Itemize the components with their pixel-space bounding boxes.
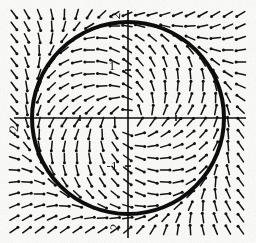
field-arrow-head bbox=[96, 85, 99, 88]
field-arrow-head bbox=[17, 169, 20, 172]
field-arrow-head bbox=[150, 92, 153, 95]
field-arrow-head bbox=[156, 204, 159, 207]
field-arrow-head bbox=[181, 155, 184, 158]
field-arrow-head bbox=[27, 17, 30, 20]
field-arrow-head bbox=[237, 141, 240, 144]
field-arrow-head bbox=[36, 113, 39, 116]
field-arrow-head bbox=[156, 170, 159, 173]
field-arrow-head bbox=[96, 98, 99, 101]
field-arrow-head bbox=[142, 225, 145, 228]
field-arrow-head bbox=[75, 149, 78, 152]
field-arrow-head bbox=[149, 56, 152, 59]
field-arrow-head bbox=[59, 75, 62, 78]
field-arrow-head bbox=[237, 165, 240, 168]
field-arrow-head bbox=[200, 224, 203, 227]
field-arrow-head bbox=[193, 130, 196, 133]
field-arrow-head bbox=[213, 212, 216, 215]
field-arrow-head bbox=[150, 80, 153, 83]
field-arrow-head bbox=[85, 112, 88, 115]
field-arrow-head bbox=[122, 46, 125, 49]
field-arrow-head bbox=[92, 226, 95, 229]
field-arrow-head bbox=[176, 68, 179, 71]
field-arrow-head bbox=[193, 167, 196, 170]
field-arrow-head bbox=[42, 214, 45, 217]
field-arrow-head bbox=[197, 36, 200, 39]
field-arrow-head bbox=[83, 73, 86, 76]
field-arrow-head bbox=[214, 188, 217, 191]
field-arrow-head bbox=[96, 48, 99, 51]
field-arrow-head bbox=[177, 80, 180, 83]
field-arrow-head bbox=[39, 29, 42, 32]
field-arrow-head bbox=[83, 37, 86, 40]
field-arrow-head bbox=[136, 93, 139, 96]
field-arrow-head bbox=[223, 70, 226, 73]
field-arrow-head bbox=[49, 137, 52, 140]
field-arrow-head bbox=[105, 207, 108, 210]
field-arrow-head bbox=[198, 46, 201, 49]
field-arrow-head bbox=[134, 14, 137, 17]
field-arrow-head bbox=[210, 26, 213, 29]
field-arrow-head bbox=[29, 214, 32, 217]
field-arrow-head bbox=[214, 92, 217, 95]
field-arrow-head bbox=[205, 153, 208, 156]
field-arrow-head bbox=[189, 68, 192, 71]
field-arrow-head bbox=[156, 144, 159, 147]
field-arrow-head bbox=[87, 137, 90, 140]
field-arrow-head bbox=[159, 14, 162, 17]
field-arrow-head bbox=[116, 137, 119, 140]
field-arrow-head bbox=[130, 134, 133, 137]
field-arrow-head bbox=[80, 206, 83, 209]
field-arrow-head bbox=[60, 112, 63, 115]
field-arrow-head bbox=[187, 56, 190, 59]
field-arrow-head bbox=[225, 92, 228, 95]
field-arrow-head bbox=[235, 49, 238, 52]
field-arrow-head bbox=[175, 56, 178, 59]
field-arrow-head bbox=[143, 170, 146, 173]
field-arrow-head bbox=[109, 47, 112, 50]
field-arrow-head bbox=[15, 64, 18, 67]
field-arrow-head bbox=[180, 201, 183, 204]
field-arrow-head bbox=[143, 183, 146, 186]
field-arrow-head bbox=[102, 149, 105, 152]
field-arrow-head bbox=[121, 95, 124, 98]
field-arrow-head bbox=[225, 176, 228, 179]
field-arrow-head bbox=[135, 45, 138, 48]
field-arrow-head bbox=[16, 226, 19, 229]
tick-label-x-left: -2 bbox=[6, 125, 21, 136]
field-arrow-head bbox=[26, 89, 29, 92]
field-arrow-head bbox=[136, 69, 139, 72]
field-arrow-head bbox=[130, 206, 133, 209]
field-arrow-head bbox=[178, 92, 181, 95]
field-arrow-head bbox=[204, 104, 207, 107]
field-arrow-head bbox=[130, 159, 133, 162]
field-arrow-head bbox=[116, 184, 119, 187]
field-arrow-head bbox=[51, 29, 54, 32]
field-arrow-head bbox=[130, 147, 133, 150]
field-arrow-head bbox=[163, 80, 166, 83]
field-arrow-head bbox=[42, 203, 45, 206]
field-arrow-head bbox=[97, 16, 100, 19]
field-arrow-head bbox=[51, 161, 54, 164]
field-arrow-head bbox=[37, 65, 40, 68]
field-arrow-head bbox=[168, 192, 171, 195]
field-arrow-head bbox=[201, 212, 204, 215]
field-arrow-head bbox=[28, 148, 31, 151]
field-arrow-head bbox=[59, 63, 62, 66]
field-arrow-head bbox=[38, 137, 41, 140]
field-arrow-head bbox=[15, 100, 18, 103]
field-arrow-head bbox=[156, 157, 159, 160]
field-arrow-head bbox=[185, 35, 188, 38]
field-arrow-head bbox=[60, 124, 63, 127]
field-arrow-head bbox=[15, 28, 18, 31]
field-arrow-head bbox=[17, 147, 20, 150]
tick-label-y-neg1: -1 bbox=[107, 158, 118, 173]
field-arrow-head bbox=[236, 177, 239, 180]
field-arrow-head bbox=[168, 156, 171, 159]
field-arrow-head bbox=[103, 173, 106, 176]
field-arrow-head bbox=[184, 25, 187, 28]
field-arrow-head bbox=[225, 104, 228, 107]
field-arrow-head bbox=[165, 104, 168, 107]
field-arrow-head bbox=[212, 224, 215, 227]
field-arrow-head bbox=[205, 141, 208, 144]
field-arrow-head bbox=[67, 226, 70, 229]
